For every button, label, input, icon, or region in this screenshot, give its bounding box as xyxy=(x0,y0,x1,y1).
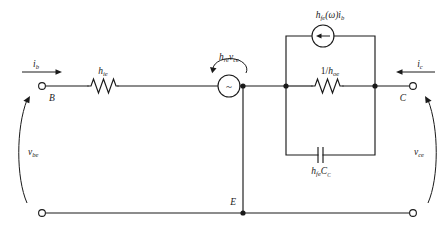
label-ic: ic xyxy=(417,59,423,70)
label-hfe-cc: hfeCC xyxy=(311,166,331,178)
circuit-schematic: ~ ib ic B E C hie hrevce xyxy=(0,0,445,239)
label-vbe: vbe xyxy=(28,147,39,158)
terminal-circle-collector[interactable] xyxy=(410,83,417,90)
voltage-arc-vce-arrowhead xyxy=(425,96,432,103)
wire-box-bottom-left xyxy=(286,86,318,155)
label-hie: hie xyxy=(98,66,108,77)
label-hfe-omega-ib: hfe(ω)ib xyxy=(316,10,345,21)
wire-box-top-left xyxy=(286,36,312,86)
terminal-circle-collector-bottom[interactable] xyxy=(410,210,417,217)
sine-source-symbol: ~ xyxy=(226,80,232,92)
polarity-arc-hre-vce-arrowhead xyxy=(210,67,217,73)
label-one-over-hoe: 1/hoe xyxy=(321,66,339,77)
current-arrow-ib-head xyxy=(56,69,63,74)
label-ib: ib xyxy=(33,59,40,70)
resistor-hoe-symbol xyxy=(312,79,343,93)
voltage-arc-vbe xyxy=(19,100,27,203)
label-hre-vce: hrevce xyxy=(219,52,239,63)
wire-box-bottom-right xyxy=(323,86,375,155)
label-terminal-E: E xyxy=(229,197,236,207)
wire-box-top-right xyxy=(334,36,375,86)
label-vce: vce xyxy=(414,147,424,158)
terminal-circle-base-bottom[interactable] xyxy=(39,210,46,217)
label-terminal-B: B xyxy=(49,93,55,103)
voltage-arc-vbe-arrowhead xyxy=(23,96,30,103)
label-terminal-C: C xyxy=(400,93,407,103)
current-arrow-ic-head xyxy=(396,69,403,74)
resistor-hie-symbol xyxy=(88,79,118,93)
terminal-circle-base[interactable] xyxy=(39,83,46,90)
voltage-arc-vce xyxy=(428,100,436,203)
circuit-diagram-root: ~ ib ic B E C hie hrevce xyxy=(0,0,445,239)
